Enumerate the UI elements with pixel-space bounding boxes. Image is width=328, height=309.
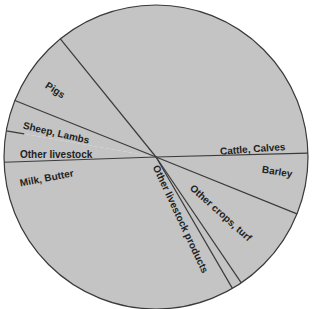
pie-chart: Cattle, CalvesBarleyOther crops, turfOth… (0, 0, 328, 309)
slice-label: Other livestock (20, 149, 93, 160)
